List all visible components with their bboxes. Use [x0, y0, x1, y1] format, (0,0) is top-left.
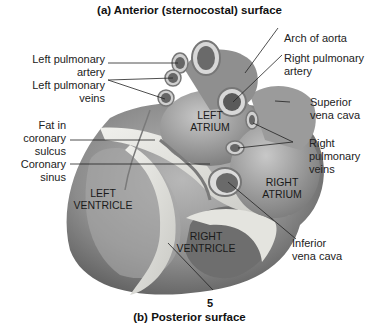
- label-line: Arch of aorta: [284, 32, 347, 45]
- region-right-atrium: RIGHT ATRIUM: [247, 176, 317, 200]
- label-line: pulmonary: [309, 150, 360, 163]
- region-right-ventricle: RIGHT VENTRICLE: [166, 230, 246, 254]
- label-superior-vena-cava: Superior vena cava: [310, 96, 360, 122]
- region-line: LEFT: [68, 187, 138, 199]
- region-line: RIGHT: [166, 230, 246, 242]
- bottom-caption: (b) Posterior surface: [0, 311, 379, 323]
- label-coronary-sinus: Coronary sinus: [0, 158, 66, 184]
- heart-body: [67, 41, 324, 295]
- label-right-pulmonary-veins: Right pulmonary veins: [309, 137, 360, 176]
- region-left-ventricle: LEFT VENTRICLE: [68, 187, 138, 211]
- label-line: Right: [309, 137, 360, 150]
- region-line: VENTRICLE: [166, 242, 246, 254]
- label-line: sinus: [0, 171, 66, 184]
- label-line: artery: [20, 66, 105, 79]
- label-arch-of-aorta: Arch of aorta: [284, 32, 347, 45]
- label-line: Superior: [310, 96, 360, 109]
- label-fat-in-coronary-sulcus: Fat in coronary sulcus: [0, 119, 66, 158]
- region-line: LEFT: [175, 109, 245, 121]
- label-line: Left pulmonary: [20, 53, 105, 66]
- label-line: veins: [20, 92, 105, 105]
- region-line: VENTRICLE: [68, 199, 138, 211]
- region-line: ATRIUM: [175, 121, 245, 133]
- label-right-pulmonary-artery: Right pulmonary artery: [284, 52, 364, 78]
- region-line: RIGHT: [247, 176, 317, 188]
- figure-number: 5: [207, 297, 213, 309]
- label-line: sulcus: [0, 145, 66, 158]
- label-line: coronary: [0, 132, 66, 145]
- label-left-pulmonary-artery: Left pulmonary artery: [20, 53, 105, 79]
- label-line: Right pulmonary: [284, 52, 364, 65]
- label-left-pulmonary-veins: Left pulmonary veins: [20, 79, 105, 105]
- label-line: Fat in: [0, 119, 66, 132]
- label-line: Inferior: [292, 237, 342, 250]
- label-inferior-vena-cava: Inferior vena cava: [292, 237, 342, 263]
- region-left-atrium: LEFT ATRIUM: [175, 109, 245, 133]
- label-line: Coronary: [0, 158, 66, 171]
- label-line: Left pulmonary: [20, 79, 105, 92]
- region-line: ATRIUM: [247, 188, 317, 200]
- label-line: vena cava: [310, 109, 360, 122]
- label-line: vena cava: [292, 250, 342, 263]
- label-line: artery: [284, 65, 364, 78]
- label-line: veins: [309, 163, 360, 176]
